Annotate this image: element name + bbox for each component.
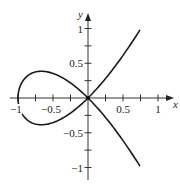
y-tick-label: −1 — [71, 162, 83, 174]
axes — [10, 13, 174, 180]
y-tick-label: 1 — [78, 23, 84, 35]
y-tick-label: 0.5 — [69, 57, 83, 69]
x-axis-label: x — [172, 98, 178, 110]
y-axis-label: y — [77, 8, 83, 20]
y-tick-label: −0.5 — [63, 127, 83, 139]
y-axis-arrow-icon — [85, 13, 91, 21]
parametric-curve-chart: −1−0.50.5110.5−0.5−1 x y — [0, 0, 180, 186]
x-tick-label: 0.5 — [116, 103, 130, 115]
x-tick-label: −0.5 — [41, 103, 61, 115]
x-tick-label: 1 — [155, 103, 161, 115]
origin-point — [86, 96, 90, 100]
x-tick-label: −1 — [10, 103, 22, 115]
